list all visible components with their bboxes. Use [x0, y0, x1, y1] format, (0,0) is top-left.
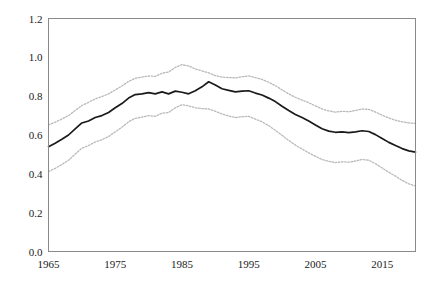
y-tick-label: 1.2	[29, 13, 43, 25]
y-tick-label: 0.0	[29, 246, 43, 258]
x-tick-label: 2015	[371, 258, 394, 270]
x-tick-label: 2005	[304, 258, 327, 270]
plot-background	[0, 0, 427, 282]
y-tick-label: 0.6	[29, 129, 43, 141]
x-tick-label: 1975	[104, 258, 127, 270]
y-tick-label: 1.0	[29, 51, 43, 63]
x-tick-label: 1995	[238, 258, 261, 270]
x-tick-label: 1965	[38, 258, 61, 270]
x-tick-label: 1985	[171, 258, 194, 270]
y-tick-label: 0.2	[29, 207, 43, 219]
y-tick-label: 0.4	[29, 168, 43, 180]
chart-page: 0.00.20.40.60.81.01.2 196519751985199520…	[0, 0, 427, 282]
y-tick-label: 0.8	[29, 90, 43, 102]
line-chart: 0.00.20.40.60.81.01.2 196519751985199520…	[0, 0, 427, 282]
